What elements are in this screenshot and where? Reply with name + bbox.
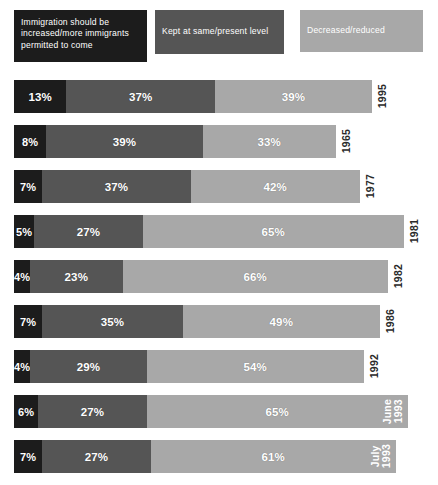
bar-segment-value: 29%: [77, 361, 100, 373]
bar-segment-value: 27%: [85, 451, 108, 463]
bar-segment-same: 27%: [38, 395, 147, 428]
stacked-bar: 7%37%42%: [14, 170, 360, 203]
bar-segment-value: 7%: [20, 316, 36, 328]
legend-item-increased: Immigration should be increased/more imm…: [14, 10, 147, 62]
bar-segment-decreased: 66%: [123, 260, 388, 293]
bar-segment-value: 65%: [262, 226, 285, 238]
bar-segment-value: 7%: [20, 451, 36, 463]
legend-item-label: Decreased/reduced: [307, 25, 385, 36]
bar-segment-value: 49%: [270, 316, 293, 328]
bar-segment-value: 23%: [65, 271, 88, 283]
legend-item-label: Kept at same/present level: [162, 26, 268, 37]
chart-row: 7%37%42%1977: [0, 164, 438, 209]
bar-segment-value: 27%: [81, 406, 104, 418]
bar-segment-same: 37%: [42, 170, 191, 203]
bar-segment-value: 27%: [77, 226, 100, 238]
year-label-text: 1965: [341, 129, 352, 153]
bar-segment-same: 29%: [30, 350, 147, 383]
year-label: 1977: [365, 170, 391, 203]
bar-segment-value: 5%: [16, 226, 32, 238]
bar-segment-value: 35%: [101, 316, 124, 328]
bar-segment-value: 13%: [28, 91, 51, 103]
bar-segment-increased: 4%: [14, 350, 30, 383]
bar-segment-same: 35%: [42, 305, 183, 338]
year-label: 1995: [377, 80, 403, 113]
year-label-text: 1982: [393, 264, 404, 288]
bar-segment-same: 39%: [46, 125, 203, 158]
stacked-bar: 6%27%65%: [14, 395, 408, 428]
bar-segment-value: 37%: [129, 91, 152, 103]
bar-segment-value: 39%: [282, 91, 305, 103]
bar-segment-decreased: 42%: [191, 170, 360, 203]
bar-segment-decreased: 65%: [143, 215, 404, 248]
bar-segment-value: 39%: [113, 136, 136, 148]
bar-segment-increased: 6%: [14, 395, 38, 428]
bar-segment-value: 8%: [22, 136, 38, 148]
year-label: 1982: [393, 260, 419, 293]
bar-segment-value: 42%: [264, 181, 287, 193]
bar-segment-increased: 13%: [14, 80, 66, 113]
chart-row: 13%37%39%1995: [0, 74, 438, 119]
year-label-text: 1981: [409, 219, 420, 243]
chart-row: 7%27%61%July 1993: [0, 434, 438, 479]
chart-row: 8%39%33%1965: [0, 119, 438, 164]
bar-segment-decreased: 65%: [147, 395, 408, 428]
bar-segment-decreased: 61%: [151, 440, 396, 473]
bar-segment-value: 54%: [244, 361, 267, 373]
bar-segment-decreased: 33%: [203, 125, 336, 158]
bar-segment-same: 23%: [30, 260, 122, 293]
stacked-bar: 4%23%66%: [14, 260, 388, 293]
chart-row: 4%23%66%1982: [0, 254, 438, 299]
stacked-bar: 5%27%65%: [14, 215, 404, 248]
bar-segment-value: 65%: [266, 406, 289, 418]
bar-segment-same: 37%: [66, 80, 215, 113]
year-label-text: 1992: [369, 354, 380, 378]
bar-segment-increased: 4%: [14, 260, 30, 293]
bar-segment-increased: 8%: [14, 125, 46, 158]
bar-segment-decreased: 54%: [147, 350, 364, 383]
bar-segment-value: 61%: [262, 451, 285, 463]
bar-segment-value: 4%: [14, 361, 30, 373]
legend-item-label: Immigration should be increased/more imm…: [21, 17, 129, 51]
stacked-bar: 7%35%49%: [14, 305, 380, 338]
stacked-bar-chart: 13%37%39%19958%39%33%19657%37%42%19775%2…: [0, 74, 438, 485]
bar-segment-increased: 7%: [14, 305, 42, 338]
stacked-bar: 8%39%33%: [14, 125, 336, 158]
bar-segment-same: 27%: [34, 215, 143, 248]
bar-segment-value: 7%: [20, 181, 36, 193]
stacked-bar: 4%29%54%: [14, 350, 364, 383]
year-label: 1965: [341, 125, 367, 158]
legend-item-same: Kept at same/present level: [155, 10, 284, 54]
bar-segment-value: 6%: [18, 406, 34, 418]
bar-segment-increased: 5%: [14, 215, 34, 248]
bar-segment-value: 33%: [258, 136, 281, 148]
chart-row: 5%27%65%1981: [0, 209, 438, 254]
year-label-text: 1977: [365, 174, 376, 198]
year-label: 1981: [409, 215, 435, 248]
bar-segment-value: 66%: [244, 271, 267, 283]
chart-row: 6%27%65%June 1993: [0, 389, 438, 434]
year-label: 1992: [369, 350, 395, 383]
bar-segment-increased: 7%: [14, 440, 42, 473]
chart-row: 4%29%54%1992: [0, 344, 438, 389]
bar-segment-value: 4%: [14, 271, 30, 283]
year-label-text: 1986: [385, 309, 396, 333]
bar-segment-increased: 7%: [14, 170, 42, 203]
bar-segment-same: 27%: [42, 440, 151, 473]
bar-segment-decreased: 49%: [183, 305, 380, 338]
chart-legend: Immigration should be increased/more imm…: [0, 0, 438, 74]
chart-row: 7%35%49%1986: [0, 299, 438, 344]
legend-item-decreased: Decreased/reduced: [300, 10, 423, 52]
bar-segment-decreased: 39%: [215, 80, 372, 113]
stacked-bar: 7%27%61%: [14, 440, 396, 473]
year-label-text: 1995: [377, 84, 388, 108]
year-label: 1986: [385, 305, 411, 338]
stacked-bar: 13%37%39%: [14, 80, 372, 113]
bar-segment-value: 37%: [105, 181, 128, 193]
